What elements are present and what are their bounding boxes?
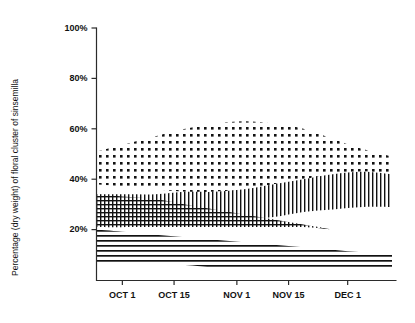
x-tick-label: NOV 15 (273, 290, 305, 300)
x-tick-label: NOV 1 (223, 290, 250, 300)
band-bottom-horizontal-line-band (97, 230, 393, 271)
y-tick-label: 80% (69, 73, 87, 83)
x-tick-label: DEC 1 (334, 290, 361, 300)
chart-container: 100%80%60%40%20% OCT 1OCT 15NOV 1NOV 15D… (0, 0, 415, 323)
x-tick-label: OCT 1 (109, 290, 136, 300)
chart-bands (97, 121, 393, 270)
y-axis-title: Percentage (dry weight) of floral cluste… (10, 79, 20, 276)
y-tick-label: 40% (69, 174, 87, 184)
y-tick-label: 100% (64, 23, 87, 33)
y-tick-label: 20% (69, 224, 87, 234)
y-tick-label: 60% (69, 124, 87, 134)
x-tick-label: OCT 15 (158, 290, 190, 300)
area-chart: 100%80%60%40%20% OCT 1OCT 15NOV 1NOV 15D… (0, 0, 415, 323)
